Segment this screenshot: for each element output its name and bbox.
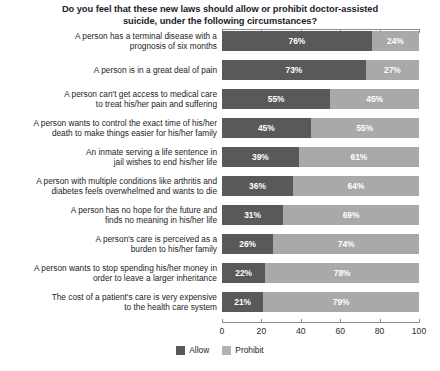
bar-row: An inmate serving a life sentence in jai… — [0, 147, 440, 167]
axis-tick-bottom — [301, 319, 302, 323]
bar-track: 76%24% — [222, 31, 419, 51]
bar-segment-prohibit: 78% — [265, 263, 419, 283]
axis-tick-label: 100 — [412, 326, 426, 336]
bar-segment-prohibit: 64% — [293, 176, 419, 196]
bar-segment-allow: 73% — [222, 60, 366, 80]
bar-row: A person is in a great deal of pain73%27… — [0, 60, 440, 80]
chart-legend: AllowProhibit — [0, 345, 440, 355]
bar-track: 45%55% — [222, 118, 419, 138]
bar-row-label: A person has no hope for the future and … — [5, 205, 217, 225]
axis-tick-label: 0 — [220, 326, 225, 336]
legend-swatch-icon — [222, 346, 231, 355]
bar-row-label: A person wants to stop spending his/her … — [5, 263, 217, 283]
bar-row: A person has a terminal disease with a p… — [0, 31, 440, 51]
axis-tick-bottom — [419, 319, 420, 323]
bar-segment-prohibit: 74% — [273, 234, 419, 254]
legend-label: Allow — [189, 345, 209, 355]
bar-row-label: A person can't get access to medical car… — [5, 89, 217, 109]
bar-segment-allow: 21% — [222, 292, 263, 312]
axis-tick-label: 60 — [335, 326, 345, 336]
bar-segment-prohibit: 69% — [283, 205, 419, 225]
bar-row-label: A person with multiple conditions like a… — [5, 176, 217, 196]
bar-track: 73%27% — [222, 60, 419, 80]
legend-item: Allow — [176, 345, 209, 355]
bar-segment-allow: 76% — [222, 31, 372, 51]
bar-row: A person has no hope for the future and … — [0, 205, 440, 225]
bar-row-label: A person has a terminal disease with a p… — [5, 31, 217, 51]
survey-stacked-bar-chart: Do you feel that these new laws should a… — [0, 0, 440, 371]
bar-segment-prohibit: 55% — [311, 118, 419, 138]
axis-tick-bottom — [261, 319, 262, 323]
legend-swatch-icon — [176, 346, 185, 355]
bar-track: 31%69% — [222, 205, 419, 225]
bar-row: A person wants to stop spending his/her … — [0, 263, 440, 283]
bar-segment-prohibit: 24% — [372, 31, 419, 51]
bar-row-label: A person's care is perceived as a burden… — [5, 234, 217, 254]
bar-segment-prohibit: 27% — [366, 60, 419, 80]
axis-tick-bottom — [340, 319, 341, 323]
bar-segment-prohibit: 45% — [330, 89, 419, 109]
bar-segment-prohibit: 61% — [299, 147, 419, 167]
bar-segment-allow: 36% — [222, 176, 293, 196]
legend-item: Prohibit — [222, 345, 263, 355]
bar-row: A person wants to control the exact time… — [0, 118, 440, 138]
bar-track: 55%45% — [222, 89, 419, 109]
bar-track: 36%64% — [222, 176, 419, 196]
axis-tick-label: 80 — [375, 326, 385, 336]
axis-tick-label: 40 — [296, 326, 306, 336]
bar-segment-prohibit: 79% — [263, 292, 419, 312]
bar-segment-allow: 26% — [222, 234, 273, 254]
bar-row: A person's care is perceived as a burden… — [0, 234, 440, 254]
bar-row-label: A person wants to control the exact time… — [5, 118, 217, 138]
bar-row-label: A person is in a great deal of pain — [5, 65, 217, 75]
bar-row-label: The cost of a patient's care is very exp… — [5, 292, 217, 312]
bar-segment-allow: 39% — [222, 147, 299, 167]
axis-top-line — [222, 29, 419, 30]
chart-title: Do you feel that these new laws should a… — [46, 3, 394, 28]
axis-tick-bottom — [222, 319, 223, 323]
bar-row: A person can't get access to medical car… — [0, 89, 440, 109]
bar-segment-allow: 22% — [222, 263, 265, 283]
axis-tick-bottom — [380, 319, 381, 323]
bar-row-label: An inmate serving a life sentence in jai… — [5, 147, 217, 167]
bar-row: A person with multiple conditions like a… — [0, 176, 440, 196]
bar-track: 26%74% — [222, 234, 419, 254]
bar-segment-allow: 55% — [222, 89, 330, 109]
legend-label: Prohibit — [235, 345, 263, 355]
axis-tick-label: 20 — [257, 326, 267, 336]
bar-row: The cost of a patient's care is very exp… — [0, 292, 440, 312]
bar-segment-allow: 31% — [222, 205, 283, 225]
bar-track: 22%78% — [222, 263, 419, 283]
bar-track: 39%61% — [222, 147, 419, 167]
bar-track: 21%79% — [222, 292, 419, 312]
bar-segment-allow: 45% — [222, 118, 311, 138]
axis-bottom-line — [222, 322, 419, 323]
